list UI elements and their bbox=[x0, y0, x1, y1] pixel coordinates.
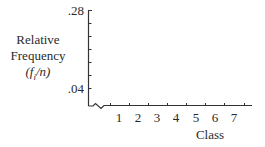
x-tick-label-6: 6 bbox=[209, 111, 221, 124]
x-tick-label-7: 7 bbox=[228, 111, 240, 124]
x-axis-label: Class bbox=[180, 128, 240, 142]
x-tick-label-3: 3 bbox=[151, 111, 163, 124]
x-axis-line-with-break bbox=[89, 104, 253, 109]
x-tick-label-4: 4 bbox=[170, 111, 182, 124]
y-axis-label: Relative Frequency (fi/n) bbox=[4, 32, 72, 85]
relative-frequency-chart: Relative Frequency (fi/n) .28 .04 1 2 3 … bbox=[0, 0, 265, 147]
y-tick-label-bottom: .04 bbox=[54, 82, 84, 95]
x-tick-label-5: 5 bbox=[190, 111, 202, 124]
y-axis-label-line2: Frequency bbox=[4, 48, 72, 64]
y-label-close: /n) bbox=[36, 64, 50, 79]
x-tick-label-1: 1 bbox=[113, 111, 125, 124]
y-axis-label-line1: Relative bbox=[4, 32, 72, 48]
y-tick-label-top: .28 bbox=[54, 4, 84, 17]
x-tick-label-2: 2 bbox=[132, 111, 144, 124]
